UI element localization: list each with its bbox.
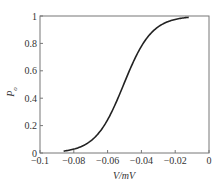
y-tick-label: 1 <box>32 11 37 22</box>
y-tick-label: 0.4 <box>25 93 38 104</box>
x-axis-ticks: −0.1−0.08−0.06−0.04−0.020 <box>31 150 212 166</box>
y-tick-label: 0.2 <box>25 120 38 131</box>
y-tick-label: 0 <box>32 148 37 159</box>
x-tick-label: 0 <box>207 155 212 166</box>
x-axis-label: V/mV <box>113 170 137 181</box>
x-tick-label: −0.02 <box>164 155 187 166</box>
x-tick-label: −0.08 <box>62 155 85 166</box>
x-tick-label: −0.04 <box>130 155 153 166</box>
y-tick-label: 0.8 <box>25 38 38 49</box>
y-axis-label: Po <box>5 87 19 98</box>
svg-text:Po: Po <box>5 87 19 98</box>
chart: −0.1−0.08−0.06−0.04−0.020 00.20.40.60.81… <box>0 0 223 186</box>
y-tick-label: 0.6 <box>25 65 38 76</box>
x-tick-label: −0.06 <box>96 155 119 166</box>
data-curve <box>64 17 189 151</box>
